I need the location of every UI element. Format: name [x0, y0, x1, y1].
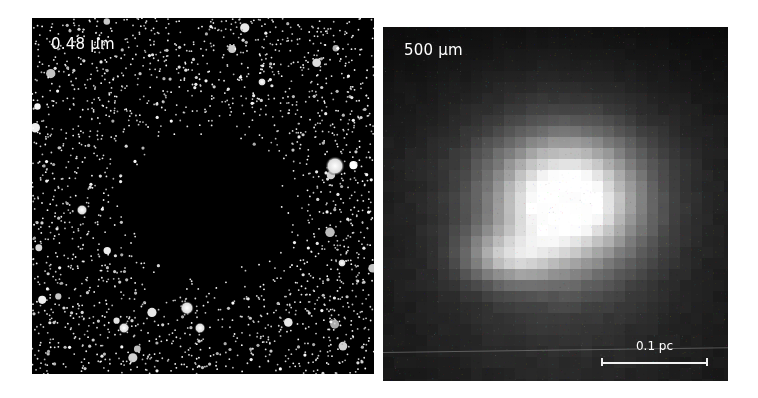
submm-image-panel: 500 μm 0.1 pc	[383, 27, 728, 381]
wavelength-label-submm: 500 μm	[404, 41, 463, 59]
scale-bar-tick-right	[706, 358, 708, 366]
scale-bar-tick-left	[601, 358, 603, 366]
dust-emission-map	[383, 27, 728, 381]
scale-bar-line	[601, 362, 708, 364]
scale-bar-label: 0.1 pc	[601, 339, 708, 353]
wavelength-label-optical: 0.48 μm	[51, 35, 115, 53]
starfield-image	[32, 18, 374, 374]
optical-image-panel: 0.48 μm	[32, 18, 374, 374]
